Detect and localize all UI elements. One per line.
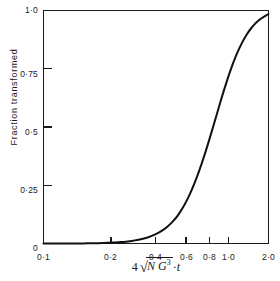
chart-figure: 1·0 0·75 0·5 0·25 0 0·1 0·2 0·4 0·6 0·8 bbox=[0, 0, 280, 281]
formula-radicand: N G3 bbox=[146, 257, 173, 274]
y-tick-label-05: 0·5 bbox=[25, 127, 38, 137]
y-tick-label-1: 1·0 bbox=[25, 5, 38, 15]
formula-time-variable: t bbox=[177, 260, 180, 274]
formula-growth-rate: G bbox=[158, 259, 167, 273]
y-tick-label-075: 0·75 bbox=[20, 69, 38, 79]
plot-frame bbox=[44, 11, 269, 244]
transformation-curve bbox=[44, 14, 269, 244]
x-axis-title: 4√N G3·t bbox=[43, 258, 269, 275]
formula-nucleation-rate: N bbox=[147, 259, 155, 274]
formula-radical: √N G3 bbox=[138, 258, 173, 275]
y-tick-label-025: 0·25 bbox=[20, 185, 38, 195]
y-axis-ticks bbox=[44, 11, 52, 244]
chart-plot-area bbox=[0, 0, 280, 281]
x-axis-ticks bbox=[44, 237, 269, 244]
x-axis-formula: 4√N G3·t bbox=[132, 258, 180, 275]
formula-growth-exponent: 3 bbox=[167, 258, 171, 267]
